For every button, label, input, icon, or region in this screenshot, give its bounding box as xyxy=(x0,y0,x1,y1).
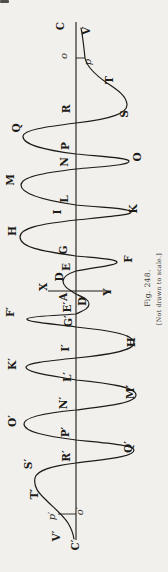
point-label-F-prime: F′ xyxy=(5,307,16,317)
point-label-N-prime: N′ xyxy=(58,397,69,409)
point-label-H: H xyxy=(7,226,18,236)
point-label-L-prime: L′ xyxy=(62,372,73,382)
point-label-o-prime: o′ xyxy=(75,507,85,515)
point-label-D-prime: D′ xyxy=(77,294,88,306)
point-label-p: p xyxy=(83,59,93,65)
point-label-G: G xyxy=(58,246,69,255)
figure-scale-note: [Not drawn to scale.] xyxy=(155,253,162,325)
figure-caption: Fig. 248. xyxy=(143,269,152,306)
point-label-D: D xyxy=(54,272,65,281)
point-label-X: X xyxy=(38,283,49,291)
point-label-A: A xyxy=(58,293,69,301)
point-label-Y: Y xyxy=(102,288,113,296)
point-label-R-prime: R′ xyxy=(61,450,72,462)
point-label-K: K xyxy=(128,204,139,213)
figure-248: CVopTSRQPONMLKIHGFEDXYAD′E′F′G′H′I′K′L′M… xyxy=(0,0,168,572)
point-label-K-prime: K′ xyxy=(7,358,18,370)
point-label-P-prime: P′ xyxy=(60,427,71,438)
point-label-S-prime: S′ xyxy=(23,459,34,469)
point-label-G-prime: G′ xyxy=(63,315,74,327)
point-label-Q-prime: Q′ xyxy=(123,441,134,453)
point-label-V: V xyxy=(81,27,92,35)
point-label-T: T xyxy=(104,76,115,84)
point-label-M: M xyxy=(5,174,16,186)
scan-artifact-speck xyxy=(0,0,9,3)
point-label-L: L xyxy=(59,195,70,202)
point-label-E: E xyxy=(61,263,72,271)
point-label-Q: Q xyxy=(11,123,22,132)
point-label-H-prime: H′ xyxy=(126,335,137,348)
point-label-F: F xyxy=(123,255,134,262)
point-label-P: P xyxy=(60,142,71,150)
point-label-S: S xyxy=(119,110,130,118)
point-label-R: R xyxy=(61,105,72,114)
point-label-C-prime: C′ xyxy=(70,539,81,550)
point-label-O-prime: O′ xyxy=(7,415,18,427)
point-label-E-prime: E′ xyxy=(62,302,73,313)
point-label-o: o xyxy=(59,53,69,59)
point-label-M-prime: M′ xyxy=(125,385,136,399)
point-label-I-prime: I′ xyxy=(60,344,71,352)
point-label-O: O xyxy=(132,152,143,161)
point-label-V-prime: V′ xyxy=(51,531,62,542)
point-label-I: I xyxy=(52,210,63,215)
point-label-p-prime: p′ xyxy=(47,512,57,521)
point-label-C: C xyxy=(55,22,66,30)
point-label-N: N xyxy=(59,157,70,167)
point-label-T-prime: T′ xyxy=(29,489,40,500)
